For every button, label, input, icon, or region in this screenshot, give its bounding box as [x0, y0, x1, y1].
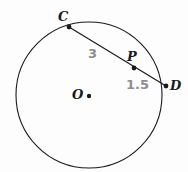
- point-marker-p: [132, 66, 137, 71]
- segment-length-label-cp: 3: [88, 47, 97, 60]
- point-marker-o-center: [87, 94, 91, 98]
- point-label-c: C: [58, 10, 68, 23]
- segment-length-label-pd: 1.5: [126, 78, 149, 91]
- geometry-figure: C P D O 3 1.5: [0, 0, 188, 172]
- point-label-p: P: [127, 50, 137, 63]
- point-label-o: O: [72, 88, 83, 101]
- geometry-canvas: [0, 0, 188, 172]
- point-marker-c: [67, 25, 72, 30]
- point-label-d: D: [170, 79, 181, 92]
- point-marker-d: [164, 84, 169, 89]
